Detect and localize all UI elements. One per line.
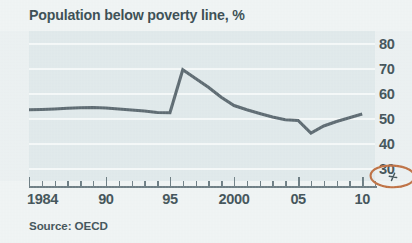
x-axis-tick-label: 90 xyxy=(98,191,113,207)
gridline xyxy=(29,118,375,120)
x-axis-tick-label: 95 xyxy=(162,191,177,207)
x-axis-tick-label: 1984 xyxy=(27,191,58,207)
gridline xyxy=(29,93,375,95)
gridline xyxy=(29,68,375,70)
gridline xyxy=(29,43,375,45)
y-axis-tick-label: 70 xyxy=(379,62,394,77)
chart-figure: Population below poverty line, % 8070605… xyxy=(0,0,412,243)
plot-area xyxy=(29,31,375,181)
y-axis-tick-label: 30 xyxy=(379,162,394,177)
gridline xyxy=(29,143,375,145)
y-axis-tick-label: 60 xyxy=(379,87,394,102)
y-axis-tick-labels: 807060504030 xyxy=(379,31,412,181)
source-note: Source: OECD xyxy=(29,219,108,232)
gridline xyxy=(29,168,375,170)
x-axis-tick-label: 10 xyxy=(354,191,369,207)
x-axis-line xyxy=(29,186,377,188)
x-axis-tick-labels: 1984909520000510 xyxy=(0,191,412,213)
chart-title: Population below poverty line, % xyxy=(29,7,245,23)
x-axis-tick-label: 05 xyxy=(290,191,305,207)
y-axis-tick-label: 80 xyxy=(379,37,394,52)
y-axis-tick-label: 50 xyxy=(379,112,394,127)
y-axis-tick-label: 40 xyxy=(379,137,394,152)
x-axis-tick-label: 2000 xyxy=(219,191,250,207)
